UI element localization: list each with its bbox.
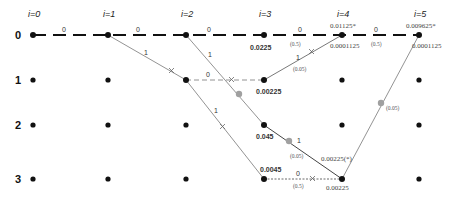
probability-label: (0.5) (293, 183, 304, 190)
cross-marker-icon (220, 124, 225, 129)
node-value: 0.045 (256, 133, 274, 140)
gray-marker-icon (286, 138, 292, 144)
edge-4-3-to-5-0 (342, 35, 419, 179)
probability-label: (0.05) (386, 105, 399, 112)
edge-label: 0 (298, 26, 302, 33)
row-label-2: 2 (15, 119, 21, 131)
edge-1-0-to-2-1 (108, 35, 186, 80)
node-value: 0.009625* (406, 22, 436, 30)
row-label-3: 3 (15, 173, 21, 185)
gray-marker-icon (378, 100, 384, 106)
edge-label: 1 (208, 51, 212, 58)
edge-label: 1 (144, 49, 148, 56)
edge-2-1-to-3-3 (186, 80, 264, 179)
column-label-3: i=3 (259, 9, 271, 19)
node-value: 0.00225 (326, 184, 349, 192)
edge-label: 0 (136, 26, 140, 33)
edge-label: 0 (374, 26, 378, 33)
edge-label: 1 (296, 54, 300, 61)
edge-label: 0 (62, 26, 66, 33)
trellis-diagram: i=0 i=1 i=2 i=3 i=4 i=5 0 1 2 3 (0, 0, 460, 198)
column-label-2: i=2 (181, 9, 193, 19)
column-label-0: i=0 (28, 9, 40, 19)
cross-marker-icon (229, 77, 234, 82)
column-label-5: i=5 (414, 9, 427, 19)
column-label-4: i=4 (337, 9, 349, 19)
node-value: 0.0225 (250, 44, 272, 51)
cross-marker-icon (310, 176, 315, 181)
column-label-1: i=1 (103, 9, 115, 19)
row-label-1: 1 (15, 74, 21, 86)
probability-labels: (0.5) (0.5) (0.05) (0.05) (0.5) (0.05) (290, 41, 399, 190)
edge-label: 0 (296, 170, 300, 177)
gray-marker-icon (236, 91, 242, 97)
probability-label: (0.5) (371, 41, 382, 48)
edge-label: 1 (214, 107, 218, 114)
node-value: 0.0001125 (412, 42, 442, 50)
probability-label: (0.5) (290, 41, 301, 48)
edge-label: 0 (206, 71, 210, 78)
column-labels: i=0 i=1 i=2 i=3 i=4 i=5 (28, 9, 427, 19)
node-values: 0.0225 0.00225 0.045 0.0045 0.01125* 0.0… (250, 22, 442, 192)
row-labels: 0 1 2 3 (15, 29, 21, 185)
edge-label: 1 (297, 137, 301, 144)
probability-label: (0.05) (290, 153, 303, 160)
node-value: 0.00225 (256, 88, 281, 95)
thin-edges (108, 35, 419, 179)
node-value: 0.01125* (330, 22, 356, 30)
node-value: 0.0045 (260, 166, 282, 173)
edge-label: 0 (207, 26, 211, 33)
row-label-0: 0 (15, 29, 21, 41)
node-value: 0.0001125 (330, 42, 360, 50)
node-value: 0.00225(*) (321, 155, 353, 163)
nodes (30, 32, 422, 182)
probability-label: (0.05) (293, 66, 306, 73)
